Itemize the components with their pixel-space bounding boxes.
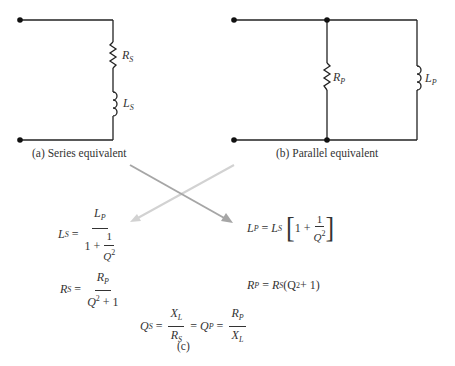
series-caption: (a) Series equivalent: [32, 147, 127, 159]
parallel-circuit: [234, 20, 421, 140]
parallel-caption: (b) Parallel equivalent: [276, 147, 378, 159]
parallel-resistor-label: RP: [333, 70, 345, 86]
series-resistor-label: RS: [122, 48, 133, 64]
equation-rs: RS = RP Q2 + 1: [60, 270, 122, 309]
parallel-terminal-bottom: [231, 137, 237, 143]
series-inductor-label: LS: [123, 96, 134, 112]
caption-c: (c): [177, 340, 190, 352]
parallel-inductor-label: LP: [425, 71, 437, 87]
series-circuit: [20, 20, 117, 140]
equation-rp: RP = RS (Q2 + 1): [247, 278, 320, 293]
series-terminal-top: [17, 17, 23, 23]
parallel-resistor: [324, 63, 330, 90]
parallel-junction-top: [324, 17, 330, 23]
parallel-terminal-top: [231, 17, 237, 23]
parallel-inductor: [417, 66, 421, 90]
series-inductor: [113, 92, 117, 118]
series-resistor: [110, 42, 116, 68]
equation-q: QS = XL RS = QP = RP XL: [140, 306, 249, 347]
equation-ls: LS = LP 1+ 1 Q2: [58, 206, 118, 262]
parallel-junction-bottom: [324, 137, 330, 143]
equation-lp: LP = LS [ 1+ 1 Q2 ]: [247, 213, 334, 243]
series-terminal-bottom: [17, 137, 23, 143]
